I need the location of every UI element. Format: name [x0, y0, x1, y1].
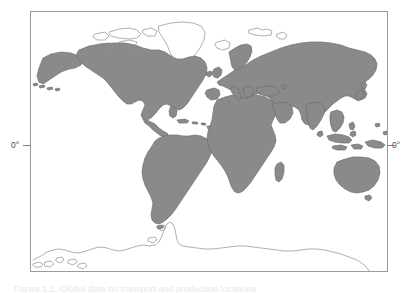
world-map-figure: 0° 0° Figure 1.1: Global data on transpo…: [0, 0, 418, 293]
region-southeast-asia: [330, 110, 344, 132]
region-turkey-anatolia: [256, 86, 279, 96]
region-caribbean-islands: [177, 119, 211, 129]
region-new-guinea: [365, 140, 385, 148]
figure-caption: Figure 1.1: Global data on transport and…: [14, 284, 404, 293]
region-africa: [207, 94, 277, 193]
region-tasmania: [365, 195, 372, 201]
region-australia: [334, 157, 380, 193]
map-plot-frame: [30, 11, 388, 272]
region-alaska: [37, 52, 83, 84]
equator-label-right: 0°: [392, 140, 400, 150]
region-aleutian-islands: [33, 83, 60, 91]
region-madagascar: [275, 162, 284, 182]
region-iceland: [215, 40, 230, 50]
region-indonesia: [327, 134, 363, 150]
filled-landmasses: [33, 42, 387, 229]
region-central-america: [143, 119, 169, 138]
region-south-america: [142, 135, 212, 224]
region-arabian-peninsula: [273, 102, 293, 123]
region-iberia: [205, 88, 220, 100]
region-british-isles: [206, 67, 222, 78]
region-philippines: [349, 122, 356, 137]
region-novaya-zemlya: [277, 32, 287, 39]
equator-tick-left: [23, 145, 31, 146]
region-antarctica: [33, 222, 369, 271]
region-sri-lanka: [317, 131, 323, 137]
region-svalbard: [249, 28, 272, 36]
equator-label-left: 0°: [11, 140, 19, 150]
world-map-canvas: [31, 12, 387, 271]
region-india: [306, 102, 325, 130]
